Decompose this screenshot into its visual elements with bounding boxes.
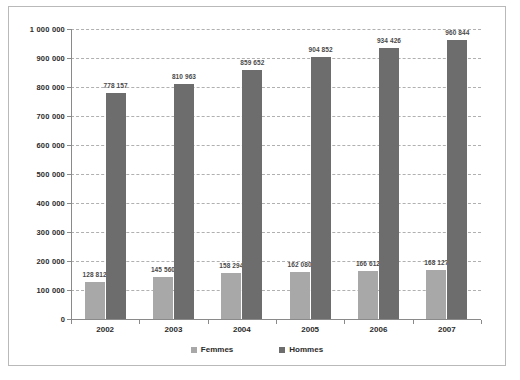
bar-hommes xyxy=(311,57,331,319)
bar-groups: 128 812778 157145 560810 963158 294859 6… xyxy=(71,29,481,319)
x-axis-tick-label: 2006 xyxy=(370,325,388,334)
bar-value-label-femmes: 145 560 xyxy=(151,266,175,273)
y-axis-tick-marks xyxy=(9,29,79,319)
x-axis-tick-mark xyxy=(344,320,345,324)
x-axis-tick-mark xyxy=(139,320,140,324)
bar-femmes xyxy=(290,272,310,319)
x-axis-tick-label: 2002 xyxy=(96,325,114,334)
x-axis-tick-mark xyxy=(481,320,482,324)
x-axis-tick-mark xyxy=(71,320,72,324)
bar-value-label-femmes: 162 080 xyxy=(288,261,312,268)
bar-hommes xyxy=(242,70,262,319)
x-axis-tick-mark xyxy=(413,320,414,324)
x-axis-tick-mark xyxy=(208,320,209,324)
chart-page: 0100 000200 000300 000400 000500 000600 … xyxy=(0,0,520,380)
x-axis-tick-label: 2005 xyxy=(301,325,319,334)
bar-femmes xyxy=(358,271,378,319)
x-axis-tick-label: 2007 xyxy=(438,325,456,334)
x-axis-tick-label: 2003 xyxy=(165,325,183,334)
bar-value-label-femmes: 166 612 xyxy=(356,260,380,267)
bar-hommes xyxy=(106,93,126,319)
bar-group: 168 127960 844 xyxy=(413,29,481,319)
bar-value-label-femmes: 128 812 xyxy=(83,271,107,278)
bar-femmes xyxy=(85,282,105,319)
legend-swatch-icon xyxy=(279,347,285,353)
bar-hommes xyxy=(379,48,399,319)
bar-value-label-hommes: 810 963 xyxy=(172,73,196,80)
bar-group: 166 612934 426 xyxy=(344,29,412,319)
bar-group: 128 812778 157 xyxy=(71,29,139,319)
bar-value-label-hommes: 778 157 xyxy=(104,82,128,89)
bar-femmes xyxy=(426,270,446,319)
x-axis-tick-labels: 200220032004200520062007 xyxy=(71,325,481,339)
bar-femmes xyxy=(153,277,173,319)
legend-label: Femmes xyxy=(201,345,233,354)
bar-value-label-hommes: 960 844 xyxy=(445,29,469,36)
bar-value-label-femmes: 158 294 xyxy=(219,262,243,269)
bar-hommes xyxy=(174,84,194,319)
bar-value-label-hommes: 934 426 xyxy=(377,37,401,44)
x-axis-tick-mark xyxy=(276,320,277,324)
legend-item-hommes[interactable]: Hommes xyxy=(279,345,323,354)
bar-value-label-femmes: 168 127 xyxy=(424,259,448,266)
chart-legend: FemmesHommes xyxy=(9,345,505,354)
legend-label: Hommes xyxy=(289,345,323,354)
chart-card: 0100 000200 000300 000400 000500 000600 … xyxy=(8,6,506,366)
legend-item-femmes[interactable]: Femmes xyxy=(191,345,233,354)
bar-femmes xyxy=(221,273,241,319)
bar-hommes xyxy=(447,40,467,319)
bar-group: 145 560810 963 xyxy=(139,29,207,319)
legend-swatch-icon xyxy=(191,347,197,353)
bar-group: 162 080904 852 xyxy=(276,29,344,319)
bar-group: 158 294859 652 xyxy=(208,29,276,319)
x-axis-tick-label: 2004 xyxy=(233,325,251,334)
bar-value-label-hommes: 859 652 xyxy=(240,59,264,66)
bar-value-label-hommes: 904 852 xyxy=(309,46,333,53)
